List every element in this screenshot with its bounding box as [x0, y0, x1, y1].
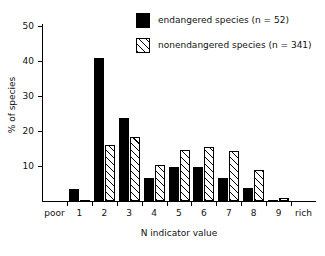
- x-axis-tick: [241, 201, 242, 206]
- bar-4-endangered: [144, 178, 154, 201]
- x-axis-tick-label: rich: [291, 208, 316, 218]
- y-axis-tick: [38, 131, 43, 132]
- bar-9-endangered: [268, 200, 278, 201]
- x-axis-tick-label: 5: [167, 208, 192, 218]
- x-axis-tick: [92, 201, 93, 206]
- bar-2-endangered: [94, 58, 104, 201]
- x-axis-tick-label: 3: [117, 208, 142, 218]
- x-axis-tick-label: 1: [67, 208, 92, 218]
- plot-area: 1020304050 poor123456789rich N indicator…: [0, 0, 325, 256]
- y-axis-tick: [38, 166, 43, 167]
- bar-8-nonendangered: [254, 170, 264, 201]
- bar-5-endangered: [169, 167, 179, 201]
- x-axis-tick-label: 4: [142, 208, 167, 218]
- x-axis-tick-label: 7: [216, 208, 241, 218]
- x-axis-tick: [266, 201, 267, 206]
- x-axis-tick: [216, 201, 217, 206]
- bar-3-nonendangered: [130, 137, 140, 201]
- bar-7-endangered: [218, 178, 228, 201]
- x-axis-tick-label: 2: [92, 208, 117, 218]
- x-axis-tick-label: 8: [241, 208, 266, 218]
- y-axis-line: [42, 24, 43, 202]
- bar-9-nonendangered: [279, 198, 289, 202]
- y-axis-tick: [38, 96, 43, 97]
- x-axis-tick: [291, 201, 292, 206]
- bar-1-endangered: [69, 189, 79, 201]
- bar-7-nonendangered: [229, 151, 239, 201]
- bar-4-nonendangered: [155, 165, 165, 201]
- y-axis-tick-label: 50: [10, 22, 34, 31]
- y-axis-tick-label: 10: [10, 162, 34, 171]
- bar-3-endangered: [119, 118, 129, 201]
- x-axis-tick-label: poor: [42, 208, 67, 218]
- x-axis-tick: [142, 201, 143, 206]
- bar-2-nonendangered: [105, 145, 115, 201]
- x-axis-tick: [117, 201, 118, 206]
- bar-1-nonendangered: [80, 200, 90, 202]
- x-axis-tick: [67, 201, 68, 206]
- x-axis-tick-label: 6: [191, 208, 216, 218]
- y-axis-tick: [38, 26, 43, 27]
- chart-figure: endangered species (n = 52) nonendangere…: [0, 0, 325, 256]
- x-axis-tick: [167, 201, 168, 206]
- bar-6-nonendangered: [204, 147, 214, 201]
- y-axis-title: % of species: [7, 65, 17, 145]
- bar-5-nonendangered: [180, 150, 190, 201]
- bar-6-endangered: [193, 167, 203, 201]
- y-axis-tick: [38, 61, 43, 62]
- x-axis-tick: [191, 201, 192, 206]
- x-axis-title: N indicator value: [42, 228, 316, 238]
- bar-8-endangered: [243, 188, 253, 201]
- x-axis-tick-label: 9: [266, 208, 291, 218]
